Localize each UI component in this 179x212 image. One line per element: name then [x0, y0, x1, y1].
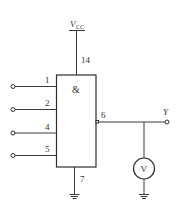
pin-5-label: 5: [45, 144, 50, 154]
pin-2-label: 2: [45, 98, 50, 108]
output-pin-marker: [96, 121, 99, 124]
input-terminal[interactable]: [11, 85, 15, 89]
input-terminal[interactable]: [11, 154, 15, 158]
output: 6 Y: [96, 107, 169, 124]
and-gate: &: [57, 75, 97, 167]
ground-icon: [139, 195, 149, 199]
input-1: 1: [11, 75, 57, 89]
input-2: 2: [11, 98, 57, 112]
vcc-subscript: CC: [76, 24, 84, 30]
pin-1-label: 1: [45, 75, 50, 85]
vcc-supply: V CC 14: [69, 19, 91, 75]
and-symbol: &: [72, 84, 80, 95]
voltmeter-branch: V: [134, 122, 155, 199]
circuit-diagram: V CC 14 & 1 2 4 5 6 Y: [0, 0, 179, 212]
input-5: 5: [11, 144, 57, 158]
pin-7-label: 7: [80, 174, 85, 184]
ground-icon: [70, 195, 80, 199]
output-label-y: Y: [163, 107, 169, 117]
gate-ground: 7: [70, 167, 86, 199]
pin-14-label: 14: [81, 55, 91, 65]
pin-4-label: 4: [45, 122, 50, 132]
voltmeter-symbol: V: [141, 164, 148, 174]
input-terminal[interactable]: [11, 131, 15, 135]
pin-6-label: 6: [101, 110, 106, 120]
output-terminal[interactable]: [165, 120, 169, 124]
input-terminal[interactable]: [11, 108, 15, 112]
input-4: 4: [11, 122, 57, 136]
